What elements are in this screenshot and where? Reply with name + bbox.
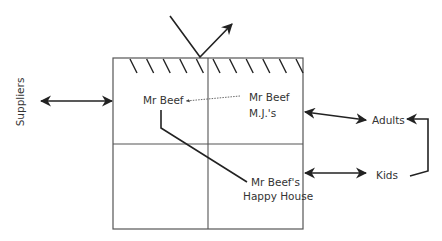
mr-beef-mjs-label-line1: Mr Beef [249, 91, 290, 103]
hatch-mark [279, 59, 286, 73]
hatch-mark [147, 59, 154, 73]
mr-beef-mjs-label-line2: M.J.'s [249, 107, 276, 119]
suppliers-label: Suppliers [14, 78, 26, 127]
mr-beef-label: Mr Beef [143, 94, 184, 106]
hatch-mark [196, 59, 203, 73]
hatch-mark [246, 59, 253, 73]
hatch-mark [130, 59, 137, 73]
dotted-arrow-mjs-to-mrbeef [186, 96, 240, 101]
happy-house-label-line2: Happy House [243, 190, 313, 202]
adults-label: Adults [372, 114, 405, 126]
happy-house-label-line1: Mr Beef's [251, 176, 300, 188]
kids-to-adults-bracket-arrow [407, 119, 428, 176]
top-edge-hatching [130, 59, 303, 73]
hatch-mark [263, 59, 270, 73]
hatch-mark [296, 59, 303, 73]
reflected-arrow [170, 16, 232, 57]
hatch-mark [163, 59, 170, 73]
hatch-mark [230, 59, 237, 73]
hatch-mark [180, 59, 187, 73]
hatch-mark [213, 59, 220, 73]
kids-label: Kids [376, 169, 398, 181]
adults-double-arrow [305, 112, 366, 120]
positioning-diagram: Suppliers Mr Beef Mr Beef M.J.'s Mr Beef… [0, 0, 442, 241]
connector-mrbeef-to-happyhouse [161, 110, 247, 182]
